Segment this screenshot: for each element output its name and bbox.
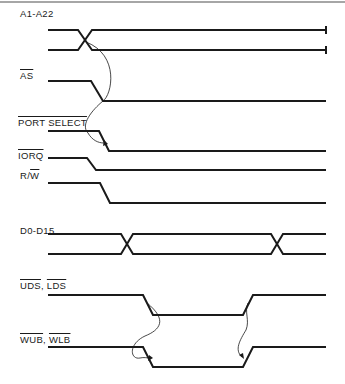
signal-label-wub-wlb: WUB, WLB xyxy=(20,334,70,345)
timing-diagram: A1-A22 AS PORT SELECT IORQ R/W D0-D15 UD… xyxy=(0,0,345,384)
signal-label-port-select: PORT SELECT xyxy=(18,117,87,128)
wave-iorq xyxy=(48,158,326,170)
wub-label: WUB xyxy=(20,334,43,345)
causality-arrow-uds-wub-rise xyxy=(238,303,248,357)
signal-label-iorq: IORQ xyxy=(18,150,43,161)
wave-as xyxy=(48,81,326,101)
signal-label-as: AS xyxy=(20,70,33,81)
rw-label-w: W xyxy=(30,170,39,181)
wave-uds-lds xyxy=(48,295,326,315)
uds-label: UDS xyxy=(20,280,41,291)
waveforms xyxy=(0,0,345,384)
wave-a1-a22 xyxy=(48,26,326,54)
signal-label-rw: R/W xyxy=(20,170,39,181)
wave-port-select xyxy=(48,131,326,151)
wave-d0-d15 xyxy=(48,234,326,254)
signal-label-d0-d15: D0-D15 xyxy=(20,225,55,236)
signal-label-uds-lds: UDS, LDS xyxy=(20,280,66,291)
rw-label-r: R/ xyxy=(20,170,30,181)
wlb-label: WLB xyxy=(49,334,71,345)
lds-label: LDS xyxy=(47,280,66,291)
causality-arrow-uds-wub-fall xyxy=(132,303,159,358)
signal-label-a1-a22: A1-A22 xyxy=(20,8,54,19)
wave-wub-wlb xyxy=(48,347,326,367)
wave-rw xyxy=(48,183,326,203)
